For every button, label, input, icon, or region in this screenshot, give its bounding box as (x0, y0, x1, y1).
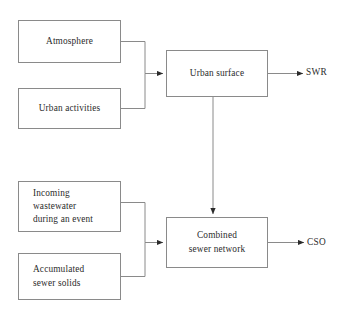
node-combined-sewer-network[interactable]: Combined sewer network (166, 217, 268, 268)
node-urban-activities-label: Urban activities (39, 102, 101, 115)
node-urban-activities[interactable]: Urban activities (18, 88, 121, 129)
edge-urban-activities-to-urban-surface (121, 74, 145, 109)
edge-incoming-to-combined (121, 203, 145, 243)
node-atmosphere[interactable]: Atmosphere (18, 20, 121, 63)
node-atmosphere-label: Atmosphere (46, 35, 93, 48)
node-accumulated-sewer-solids-label: Accumulated sewer solids (33, 263, 84, 289)
node-combined-sewer-network-label: Combined sewer network (189, 229, 245, 255)
output-label-cso: CSO (307, 237, 326, 247)
node-accumulated-sewer-solids[interactable]: Accumulated sewer solids (18, 253, 121, 300)
edge-accumulated-to-combined (121, 243, 145, 277)
node-incoming-wastewater-label: Incoming wastewater during an event (33, 187, 93, 227)
flow-diagram-canvas: Atmosphere Urban activities Urban surfac… (0, 0, 345, 311)
edge-atmosphere-to-urban-surface (121, 42, 145, 74)
node-incoming-wastewater[interactable]: Incoming wastewater during an event (18, 181, 121, 232)
output-label-swr: SWR (306, 67, 327, 77)
node-urban-surface[interactable]: Urban surface (166, 50, 268, 97)
node-urban-surface-label: Urban surface (190, 67, 244, 80)
